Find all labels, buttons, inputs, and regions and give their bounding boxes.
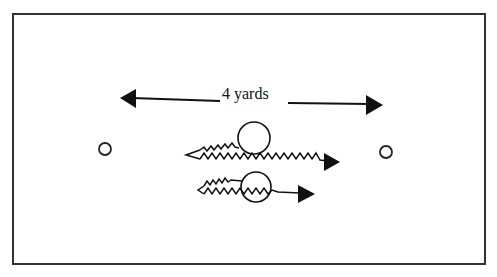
zigzag-tail-icon	[198, 186, 204, 194]
arrowhead-left-icon	[120, 89, 136, 108]
distance-arrow-right	[288, 95, 383, 115]
arrowhead-right-icon	[366, 95, 383, 115]
distance-label: 4 yards	[222, 85, 269, 103]
arrowhead-right-icon	[298, 185, 315, 203]
arrowhead-right-icon	[324, 153, 340, 171]
upper-player	[186, 122, 340, 171]
zigzag-path	[204, 188, 300, 194]
player-circle-icon	[238, 122, 270, 154]
distance-arrow-left	[120, 89, 220, 108]
zigzag-path	[200, 143, 239, 151]
cone-left-icon	[99, 143, 111, 155]
lower-player	[198, 172, 315, 203]
cone-right-icon	[380, 146, 392, 158]
zigzag-path	[200, 153, 328, 161]
drill-diagram	[0, 0, 497, 277]
open-arrow-tail-icon	[186, 150, 200, 159]
zigzag-path	[204, 178, 242, 186]
